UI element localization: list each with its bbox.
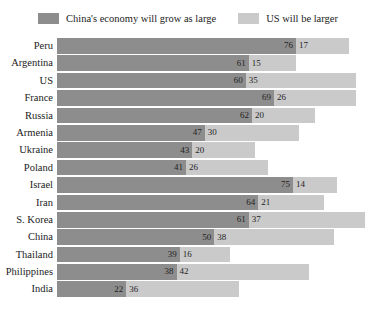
legend-entry: China's economy will grow as large [38, 13, 216, 24]
category-label: France [0, 90, 53, 106]
bar-value-us: 30 [205, 128, 220, 137]
bar-segment-us: 17 [296, 38, 349, 54]
category-label: Ukraine [0, 142, 53, 158]
chart-row: S. Korea6137 [0, 212, 376, 228]
chart-legend: China's economy will grow as largeUS wil… [0, 13, 376, 24]
bar-segment-china: 39 [57, 247, 180, 263]
chart-row: India2236 [0, 281, 376, 297]
bar-segment-china: 22 [57, 281, 126, 297]
bar-segment-china: 60 [57, 73, 246, 89]
category-label: Peru [0, 38, 53, 54]
bar-value-china: 47 [190, 128, 205, 137]
legend-label: China's economy will grow as large [66, 13, 216, 24]
bar-segment-us: 14 [293, 177, 337, 193]
chart-plot-area: Peru7617Argentina6115US6035France6926Rus… [0, 38, 376, 320]
bar-segment-us: 42 [177, 264, 309, 280]
chart-row: US6035 [0, 73, 376, 89]
bar-value-china: 62 [237, 111, 252, 120]
bar-value-us: 26 [186, 163, 201, 172]
category-label: Philippines [0, 264, 53, 280]
bar-segment-us: 37 [249, 212, 365, 228]
bar-segment-china: 43 [57, 142, 192, 158]
category-label: Israel [0, 177, 53, 193]
category-label: China [0, 229, 53, 245]
bar-segment-china: 76 [57, 38, 296, 54]
stacked-bar: 6421 [57, 195, 324, 211]
chart-row: China5038 [0, 229, 376, 245]
bar-value-china: 75 [278, 180, 293, 189]
category-label: US [0, 73, 53, 89]
bar-segment-us: 20 [192, 142, 255, 158]
category-label: Armenia [0, 125, 53, 141]
bar-value-us: 15 [249, 59, 264, 68]
legend-label: US will be larger [266, 13, 338, 24]
bar-segment-china: 38 [57, 264, 177, 280]
chart-row: Ukraine4320 [0, 142, 376, 158]
bar-segment-china: 75 [57, 177, 293, 193]
bar-segment-china: 62 [57, 108, 252, 124]
stacked-bar-chart: China's economy will grow as largeUS wil… [0, 0, 376, 324]
bar-value-china: 39 [165, 250, 180, 259]
bar-segment-china: 64 [57, 195, 258, 211]
stacked-bar: 7514 [57, 177, 337, 193]
bar-value-us: 35 [246, 76, 261, 85]
category-label: Thailand [0, 247, 53, 263]
bar-value-us: 38 [214, 233, 229, 242]
category-label: S. Korea [0, 212, 53, 228]
category-label: India [0, 281, 53, 297]
bar-value-us: 26 [274, 93, 289, 102]
bar-segment-china: 41 [57, 160, 186, 176]
stacked-bar: 2236 [57, 281, 239, 297]
stacked-bar: 3842 [57, 264, 309, 280]
bar-segment-us: 36 [126, 281, 239, 297]
bar-value-china: 61 [234, 59, 249, 68]
bar-segment-us: 21 [258, 195, 324, 211]
bar-segment-us: 26 [186, 160, 268, 176]
bar-value-us: 36 [126, 285, 141, 294]
bar-value-us: 20 [252, 111, 267, 120]
stacked-bar: 6926 [57, 90, 356, 106]
bar-value-us: 42 [177, 267, 192, 276]
chart-row: Armenia4730 [0, 125, 376, 141]
bar-value-us: 21 [258, 198, 273, 207]
legend-swatch-icon [38, 13, 59, 24]
bar-segment-china: 47 [57, 125, 205, 141]
chart-row: Peru7617 [0, 38, 376, 54]
bar-segment-china: 61 [57, 212, 249, 228]
bar-value-china: 64 [243, 198, 258, 207]
bar-segment-china: 61 [57, 55, 249, 71]
chart-row: Israel7514 [0, 177, 376, 193]
bar-segment-us: 15 [249, 55, 296, 71]
stacked-bar: 4730 [57, 125, 299, 141]
stacked-bar: 6115 [57, 55, 296, 71]
bar-value-china: 76 [281, 41, 296, 50]
category-label: Argentina [0, 55, 53, 71]
category-label: Iran [0, 195, 53, 211]
bar-value-china: 38 [162, 267, 177, 276]
bar-value-us: 17 [296, 41, 311, 50]
bar-value-us: 14 [293, 180, 308, 189]
bar-value-us: 20 [192, 146, 207, 155]
bar-segment-us: 16 [180, 247, 230, 263]
bar-segment-us: 26 [274, 90, 356, 106]
chart-row: Argentina6115 [0, 55, 376, 71]
bar-segment-us: 20 [252, 108, 315, 124]
bar-value-china: 43 [177, 146, 192, 155]
bar-segment-china: 50 [57, 229, 214, 245]
bar-segment-china: 69 [57, 90, 274, 106]
bar-value-china: 69 [259, 93, 274, 102]
chart-row: Russia6220 [0, 108, 376, 124]
stacked-bar: 4126 [57, 160, 268, 176]
stacked-bar: 4320 [57, 142, 255, 158]
bar-value-china: 41 [171, 163, 186, 172]
bar-value-us: 37 [249, 215, 264, 224]
bar-value-china: 60 [231, 76, 246, 85]
chart-row: Thailand3916 [0, 247, 376, 263]
bar-value-china: 61 [234, 215, 249, 224]
legend-swatch-icon [238, 13, 259, 24]
bar-value-us: 16 [180, 250, 195, 259]
category-label: Russia [0, 108, 53, 124]
chart-row: Poland4126 [0, 160, 376, 176]
bar-segment-us: 38 [214, 229, 334, 245]
chart-row: France6926 [0, 90, 376, 106]
